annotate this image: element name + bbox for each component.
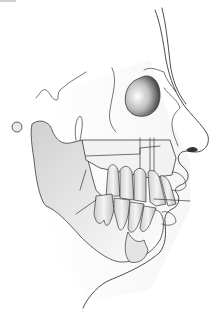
top-edge-mark xyxy=(0,0,16,2)
anatomical-illustration xyxy=(0,0,219,317)
ear-marker xyxy=(12,122,22,132)
skull-jaw-profile-drawing xyxy=(0,0,219,317)
